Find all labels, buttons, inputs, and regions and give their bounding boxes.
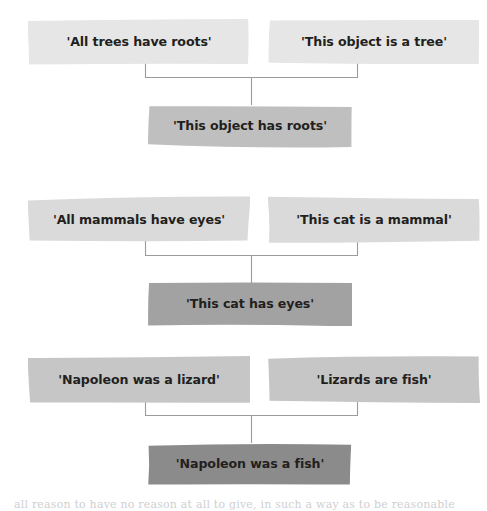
- group-2-premise-left: 'All mammals have eyes': [28, 196, 250, 243]
- group-1-conclusion-label: 'This object has roots': [173, 119, 327, 133]
- group-3-premise-left-label: 'Napoleon was a lizard': [58, 373, 220, 387]
- group-3-premise-right: 'Lizards are fish': [268, 356, 480, 403]
- inference-connector: [0, 400, 487, 446]
- bottom-caption-text: all reason to have no reason at all to g…: [14, 498, 455, 511]
- group-3-premise-left: 'Napoleon was a lizard': [28, 356, 250, 403]
- inference-connector: [0, 62, 487, 108]
- group-1-conclusion: 'This object has roots': [148, 104, 352, 148]
- group-3-conclusion-label: 'Napoleon was a fish': [176, 457, 324, 471]
- group-2-premise-right: 'This cat is a mammal': [268, 196, 480, 243]
- group-1-premise-left-label: 'All trees have roots': [66, 35, 211, 49]
- bottom-caption: all reason to have no reason at all to g…: [0, 498, 487, 511]
- group-3: 'Napoleon was a lizard''Lizards are fish…: [0, 356, 487, 490]
- group-3-conclusion: 'Napoleon was a fish': [148, 442, 352, 486]
- group-2-conclusion-label: 'This cat has eyes': [186, 297, 314, 311]
- group-2-conclusion: 'This cat has eyes': [148, 282, 352, 326]
- group-2: 'All mammals have eyes''This cat is a ma…: [0, 196, 487, 330]
- inference-connector: [0, 240, 487, 286]
- group-3-premise-right-label: 'Lizards are fish': [316, 373, 431, 387]
- syllogism-diagram: 'All trees have roots''This object is a …: [0, 0, 487, 511]
- group-1-premise-left: 'All trees have roots': [28, 18, 250, 65]
- group-1: 'All trees have roots''This object is a …: [0, 18, 487, 152]
- group-1-premise-right-label: 'This object is a tree': [301, 35, 447, 49]
- group-1-premise-right: 'This object is a tree': [268, 18, 480, 65]
- group-2-premise-left-label: 'All mammals have eyes': [53, 213, 225, 227]
- group-2-premise-right-label: 'This cat is a mammal': [296, 213, 451, 227]
